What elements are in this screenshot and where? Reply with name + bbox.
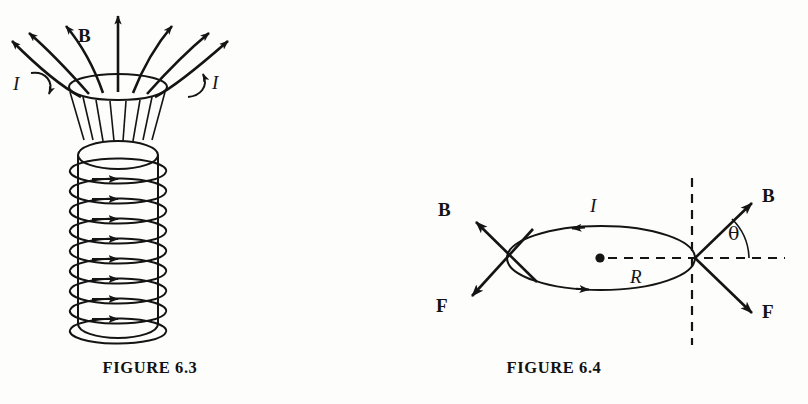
coil-turn-2 xyxy=(70,178,166,203)
current-arrow-right xyxy=(188,74,205,97)
loop-current-arrow-bottom xyxy=(576,289,589,290)
field-vector-left-B xyxy=(476,222,537,282)
coil-turn-1 xyxy=(70,158,166,183)
flare-line-3 xyxy=(96,100,103,141)
loop-center-dot xyxy=(595,253,604,262)
flare-line-4 xyxy=(110,101,114,141)
angle-label-theta: θ xyxy=(728,222,739,244)
cylinder-bottom-cap xyxy=(78,324,158,338)
current-label-right: I xyxy=(211,72,220,93)
current-label-I: I xyxy=(589,195,598,216)
coil-turn-7 xyxy=(70,278,166,303)
figure-6-3-drawing: B I I xyxy=(0,0,300,404)
current-indicator-right: I xyxy=(188,72,220,97)
current-arrow-left xyxy=(31,73,50,94)
field-label-left-B: B xyxy=(438,199,451,220)
magnetic-field-lines xyxy=(12,16,228,97)
coil-turn-5 xyxy=(70,238,166,263)
right-vertex-vectors: θ B F xyxy=(695,185,775,322)
force-vector-left-F xyxy=(472,229,533,296)
figure-6-4: R I θ B F B F FIGURE 6.4 xyxy=(300,0,808,404)
flare-line-6 xyxy=(133,100,140,141)
flare-line-2 xyxy=(83,97,93,140)
current-label-left: I xyxy=(12,73,21,94)
field-label-B: B xyxy=(78,25,91,46)
field-line-right-1 xyxy=(133,26,172,93)
figure-page: B I I xyxy=(0,0,808,404)
radius-label-R: R xyxy=(629,266,642,287)
flare-line-7 xyxy=(143,97,152,140)
figure-6-4-caption: FIGURE 6.4 xyxy=(300,358,808,378)
force-label-right-F: F xyxy=(762,301,774,322)
figure-6-4-drawing: R I θ B F B F xyxy=(300,0,808,404)
force-vector-right-F xyxy=(695,258,752,313)
field-vector-right-B xyxy=(695,203,752,258)
figure-6-3: B I I xyxy=(0,0,300,404)
loop-current-arrow-top xyxy=(572,228,585,229)
current-indicator-left: I xyxy=(12,73,50,94)
flare-line-1 xyxy=(70,92,84,140)
coil-turn-3 xyxy=(70,198,166,223)
reference-axes xyxy=(608,178,785,345)
flare-line-8 xyxy=(152,92,165,140)
flare-line-5 xyxy=(123,101,126,141)
figure-6-3-caption: FIGURE 6.3 xyxy=(0,358,300,378)
cylinder-top-cap xyxy=(78,141,158,169)
left-vertex-vectors: B F xyxy=(436,199,537,316)
coil-turn-8 xyxy=(70,298,166,323)
force-label-left-F: F xyxy=(436,295,448,316)
coil-turn-4 xyxy=(70,218,166,243)
coil-turn-6 xyxy=(70,258,166,283)
field-label-right-B: B xyxy=(762,185,775,206)
coil-windings xyxy=(70,158,166,343)
